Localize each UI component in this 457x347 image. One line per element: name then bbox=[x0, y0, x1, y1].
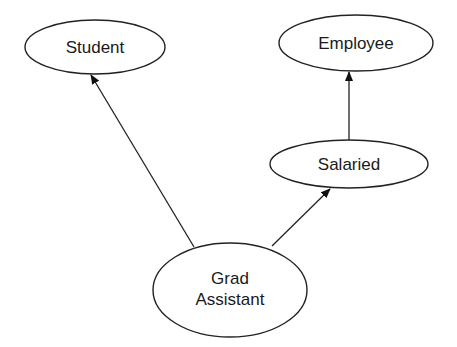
inheritance-diagram: Student Employee Salaried Grad Assistant bbox=[0, 0, 457, 347]
node-salaried-label: Salaried bbox=[318, 155, 380, 174]
node-student-label: Student bbox=[66, 38, 125, 57]
node-grad-assistant: Grad Assistant bbox=[153, 243, 307, 337]
edge-grad-assistant-to-student bbox=[91, 75, 194, 247]
edge-grad-assistant-to-salaried bbox=[272, 189, 330, 246]
node-employee-label: Employee bbox=[318, 34, 394, 53]
node-student: Student bbox=[25, 20, 165, 74]
node-grad-assistant-label-line2: Assistant bbox=[196, 290, 265, 309]
node-salaried: Salaried bbox=[270, 140, 428, 188]
node-employee: Employee bbox=[279, 15, 433, 71]
node-grad-assistant-label-line1: Grad bbox=[211, 269, 249, 288]
